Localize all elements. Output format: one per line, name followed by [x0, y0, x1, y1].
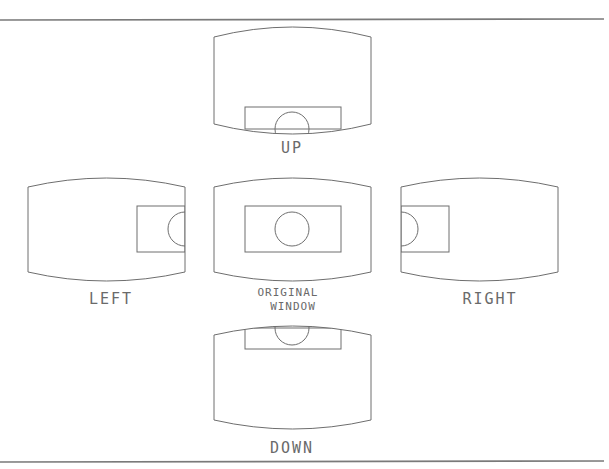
window-down	[214, 311, 371, 429]
viewport-region	[384, 206, 449, 252]
window-outline	[401, 178, 558, 281]
inner-rectangle	[401, 206, 449, 252]
window-up	[214, 27, 371, 146]
label-original-line2: WINDOW	[258, 301, 328, 312]
window-right	[384, 178, 558, 281]
top-border-line	[0, 19, 604, 20]
label-left: LEFT	[76, 292, 146, 307]
label-original-line1: ORIGINAL	[248, 287, 328, 298]
direction-diagram	[0, 0, 609, 469]
window-outline	[214, 27, 371, 134]
label-right: RIGHT	[450, 292, 530, 307]
window-original	[214, 178, 371, 281]
windows-layer	[28, 27, 558, 429]
viewport-region	[137, 206, 202, 252]
window-outline	[214, 178, 371, 281]
viewport-region	[245, 206, 341, 252]
inner-rectangle	[245, 328, 341, 349]
inner-rectangle	[245, 107, 341, 129]
label-down: DOWN	[252, 441, 332, 456]
window-outline	[214, 326, 371, 429]
viewport-region	[245, 311, 341, 349]
target-circle	[275, 212, 309, 246]
inner-rectangle	[137, 206, 185, 252]
inner-rectangle	[245, 206, 341, 252]
window-outline	[28, 178, 185, 281]
label-up: UP	[262, 141, 322, 156]
window-left	[28, 178, 202, 281]
bottom-border-line	[0, 461, 604, 462]
